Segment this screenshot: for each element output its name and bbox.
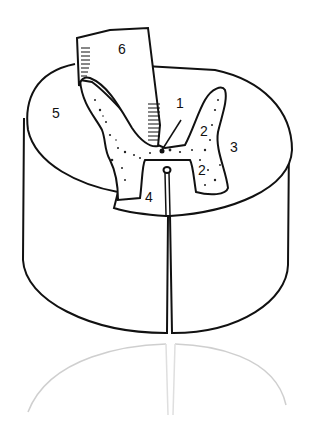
label-5: 5 <box>52 106 60 120</box>
label-3: 3 <box>230 140 238 154</box>
label-4: 4 <box>145 190 153 204</box>
label-1: 1 <box>176 96 184 110</box>
label-2-lower: 2 <box>198 163 206 177</box>
label-2-upper: 2 <box>200 124 208 138</box>
spinal-cord-diagram: 1 2 2 3 4 5 6 <box>0 0 314 441</box>
label-6: 6 <box>118 42 126 56</box>
reflection <box>28 344 286 415</box>
diagram-drawing <box>0 0 314 441</box>
